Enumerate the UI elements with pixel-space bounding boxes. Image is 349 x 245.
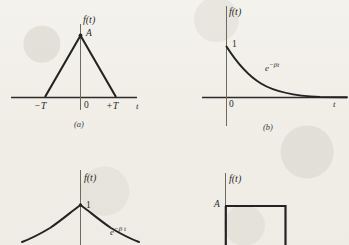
panel-a-y-axis-label: f(t)	[83, 15, 95, 25]
panel-d-y-axis-label: f(t)	[229, 174, 241, 184]
panel-b-caption: (b)	[263, 123, 273, 132]
panel-c-waveform-left	[22, 205, 81, 242]
panel-a-x-axis-label: t	[136, 102, 139, 111]
panel-d-waveform	[225, 206, 286, 245]
panel-b-curve-label-exponent: −βt	[269, 61, 279, 69]
panel-b-origin-label: 0	[229, 100, 234, 110]
panel-c-curve-label-exponent: −β t	[114, 225, 126, 233]
panel-c-y-axis-label: f(t)	[84, 173, 96, 183]
panel-c-apex-dot	[79, 203, 82, 206]
panel-a-apex-dot	[79, 34, 83, 38]
panel-c-curve-label: e−β t	[110, 226, 126, 237]
panel-b-plot	[175, 0, 349, 135]
panel-c-peak-label: 1	[86, 201, 91, 211]
panel-d-amplitude-label: A	[214, 200, 220, 210]
panel-d-rectangular-pulse: f(t) A	[175, 160, 349, 245]
panel-b-decaying-exponential: f(t) 1 0 t e−βt (b)	[175, 0, 349, 135]
panel-d-plot	[175, 160, 349, 245]
panel-a-right-tick-label: +T	[106, 101, 118, 111]
panel-b-y-axis-label: f(t)	[229, 7, 241, 17]
panel-b-x-axis-label: t	[333, 100, 336, 109]
panel-a-origin-label: 0	[84, 101, 89, 111]
panel-c-two-sided-exponential: f(t) 1 e−β t	[0, 160, 175, 245]
panel-a-left-tick-label: −T	[34, 101, 46, 111]
panel-b-waveform	[227, 47, 348, 98]
panel-a-triangular-pulse: f(t) A −T 0 +T t (a)	[0, 0, 175, 135]
panel-a-peak-label: A	[86, 29, 92, 39]
panel-b-curve-label: e−βt	[265, 62, 279, 73]
panel-a-caption: (a)	[74, 120, 84, 129]
panel-b-peak-label: 1	[232, 40, 237, 50]
